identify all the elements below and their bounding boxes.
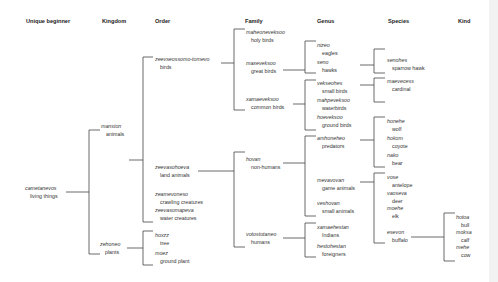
node-gloss: cow bbox=[456, 252, 470, 260]
node-family-non-humans: hovan non-humans bbox=[246, 156, 280, 171]
node-name: xamaehestan bbox=[317, 224, 349, 232]
node-genus-eagles: nizeo eagles bbox=[317, 42, 338, 57]
node-species-wolf: honehe wolf bbox=[387, 118, 405, 133]
node-kingdom-plants: zehoneo plants bbox=[100, 241, 120, 256]
node-name: zeevasohoeva bbox=[155, 164, 190, 172]
node-species-deer: vaoseva deer bbox=[387, 190, 407, 205]
node-family-great-birds: maxeveksoo great birds bbox=[246, 60, 276, 75]
node-species-antelope: vose antelope bbox=[387, 174, 412, 189]
node-gloss: crawling creatures bbox=[155, 199, 203, 207]
node-gloss: ground plant bbox=[155, 258, 189, 266]
node-gloss: elk bbox=[387, 213, 403, 221]
node-species-coyote: hokom coyote bbox=[387, 135, 408, 150]
node-gloss: coyote bbox=[387, 143, 408, 151]
node-name: senohes bbox=[387, 57, 425, 65]
node-name: maheoneveksoo bbox=[246, 29, 285, 37]
node-gloss: common birds bbox=[246, 104, 284, 112]
node-kingdom-animals: manston animals bbox=[101, 123, 124, 138]
node-genus-waterbirds: mahpeveksoo waterbirds bbox=[317, 97, 350, 112]
node-gloss: living things bbox=[25, 193, 58, 201]
node-gloss: birds bbox=[155, 64, 209, 72]
node-genus-foreigners: hestohestan foreigners bbox=[317, 243, 346, 258]
node-name: mehe bbox=[456, 244, 470, 252]
node-name: vose bbox=[387, 174, 412, 182]
node-name: vaoseva bbox=[387, 190, 407, 198]
node-name: seno bbox=[317, 59, 337, 67]
node-gloss: wolf bbox=[387, 126, 405, 134]
node-gloss: bear bbox=[387, 160, 403, 168]
node-family-common-birds: xamaeveksoo common birds bbox=[246, 96, 284, 111]
node-name: veshovan bbox=[317, 200, 354, 208]
node-name: zeamevoneso bbox=[155, 191, 203, 199]
node-name: hokom bbox=[387, 135, 408, 143]
node-name: maxeveksoo bbox=[246, 60, 276, 68]
node-name: hovan bbox=[246, 156, 280, 164]
node-name: esevon bbox=[387, 229, 408, 237]
node-species-buffalo: esevon buffalo bbox=[387, 229, 408, 244]
node-family-holy-birds: maheoneveksoo holy birds bbox=[246, 29, 285, 44]
node-gloss: Indians bbox=[317, 232, 349, 240]
node-gloss: tree bbox=[155, 240, 169, 248]
node-gloss: small animals bbox=[317, 208, 354, 216]
node-gloss: cardinal bbox=[387, 86, 414, 94]
node-order-water-creatures: zeevasomapeva water creatures bbox=[155, 207, 197, 222]
node-name: votostotaneo bbox=[246, 231, 276, 239]
node-genus-predators: amhoneheo predators bbox=[317, 135, 345, 150]
node-genus-game-animals: mevavovan game animals bbox=[317, 177, 355, 192]
node-order-ground-plant: moez ground plant bbox=[155, 250, 189, 265]
node-gloss: land animals bbox=[155, 172, 190, 180]
node-name: vekseohes bbox=[317, 80, 347, 88]
node-order-birds: zeevseossomo-tomevo birds bbox=[155, 56, 209, 71]
node-unique-beginner: cametanevos living things bbox=[25, 185, 58, 200]
node-name: hestohestan bbox=[317, 243, 346, 251]
node-gloss: plants bbox=[100, 249, 120, 257]
node-name: nako bbox=[387, 152, 403, 160]
node-name: mahpeveksoo bbox=[317, 97, 350, 105]
node-gloss: foreigners bbox=[317, 251, 346, 259]
node-name: moehe bbox=[387, 205, 403, 213]
node-genus-hawks: seno hawks bbox=[317, 59, 337, 74]
node-genus-small-animals: veshovan small animals bbox=[317, 200, 354, 215]
node-name: amhoneheo bbox=[317, 135, 345, 143]
node-genus-indians: xamaehestan Indians bbox=[317, 224, 349, 239]
node-order-tree: hoxzz tree bbox=[155, 232, 169, 247]
node-species-cardinal: maevecess cardinal bbox=[387, 78, 414, 93]
node-gloss: water creatures bbox=[155, 215, 197, 223]
node-name: moksa bbox=[456, 229, 472, 237]
node-name: moez bbox=[155, 250, 189, 258]
node-gloss: buffalo bbox=[387, 237, 408, 245]
node-name: manston bbox=[101, 123, 124, 131]
node-species-sparrow-hawk: senohes sparrow hawk bbox=[387, 57, 425, 72]
node-species-bear: nako bear bbox=[387, 152, 403, 167]
node-name: hoeveksoo bbox=[317, 114, 351, 122]
node-name: hotoa bbox=[456, 214, 469, 222]
node-gloss: great birds bbox=[246, 68, 276, 76]
node-name: zeevseossomo-tomevo bbox=[155, 56, 209, 64]
node-kind-bull: hotoa bull bbox=[456, 214, 469, 229]
node-name: mevavovan bbox=[317, 177, 355, 185]
node-order-land-animals: zeevasohoeva land animals bbox=[155, 164, 190, 179]
node-genus-small-birds: vekseohes small birds bbox=[317, 80, 347, 95]
node-name: hoxzz bbox=[155, 232, 169, 240]
node-gloss: non-humans bbox=[246, 164, 280, 172]
node-name: cametanevos bbox=[25, 185, 58, 193]
node-gloss: holy birds bbox=[246, 37, 285, 45]
node-gloss: predators bbox=[317, 143, 345, 151]
node-gloss: eagles bbox=[317, 50, 338, 58]
node-gloss: waterbirds bbox=[317, 105, 350, 113]
node-family-humans: votostotaneo humans bbox=[246, 231, 276, 246]
node-kind-cow: mehe cow bbox=[456, 244, 470, 259]
node-kind-calf: moksa calf bbox=[456, 229, 472, 244]
node-genus-ground-birds: hoeveksoo ground birds bbox=[317, 114, 351, 129]
node-name: maevecess bbox=[387, 78, 414, 86]
node-gloss: ground birds bbox=[317, 122, 351, 130]
node-gloss: game animals bbox=[317, 185, 355, 193]
node-species-elk: moehe elk bbox=[387, 205, 403, 220]
node-name: xamaeveksoo bbox=[246, 96, 284, 104]
node-name: nizeo bbox=[317, 42, 338, 50]
node-gloss: animals bbox=[101, 131, 124, 139]
node-gloss: antelope bbox=[387, 182, 412, 190]
node-name: honehe bbox=[387, 118, 405, 126]
node-name: zehoneo bbox=[100, 241, 120, 249]
node-order-crawling-creatures: zeamevoneso crawling creatures bbox=[155, 191, 203, 206]
